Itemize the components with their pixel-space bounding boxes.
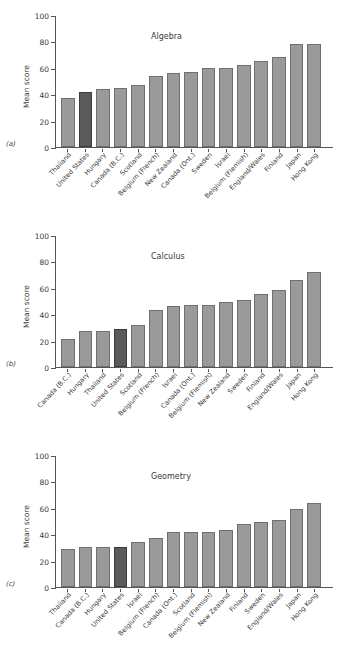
bar bbox=[219, 530, 233, 587]
y-axis-tick-label: 60 bbox=[39, 64, 49, 73]
bar-slot bbox=[288, 236, 306, 367]
bar bbox=[61, 549, 75, 587]
bar bbox=[254, 522, 268, 587]
plot-area-geometry: (c)Mean score020406080100GeometryThailan… bbox=[0, 440, 344, 660]
bar bbox=[307, 44, 321, 147]
bar-slot bbox=[129, 236, 147, 367]
bar-slot bbox=[147, 456, 165, 587]
bar-slot bbox=[147, 16, 165, 147]
bar-slot bbox=[253, 236, 271, 367]
x-axis-labels: ThailandUnited StatesHungaryCanada (B.C.… bbox=[55, 149, 333, 221]
bar-slot bbox=[165, 236, 183, 367]
bar-slot bbox=[200, 456, 218, 587]
x-label-slot: England/Wales bbox=[270, 589, 288, 661]
bar-slot bbox=[217, 236, 235, 367]
bar-series bbox=[56, 456, 333, 587]
panel-letter: (a) bbox=[6, 140, 16, 148]
y-axis-tick-label: 20 bbox=[39, 117, 49, 126]
bar-slot bbox=[77, 16, 95, 147]
bar bbox=[272, 290, 286, 367]
bar-slot bbox=[77, 456, 95, 587]
y-axis-tick-label: 60 bbox=[39, 284, 49, 293]
bar-slot bbox=[94, 236, 112, 367]
bar bbox=[237, 65, 251, 147]
bar-slot bbox=[253, 16, 271, 147]
bar-slot bbox=[165, 456, 183, 587]
bar bbox=[131, 325, 145, 367]
bar bbox=[219, 68, 233, 147]
bar-slot bbox=[305, 16, 323, 147]
bar-slot bbox=[288, 16, 306, 147]
bar-highlighted bbox=[79, 92, 93, 147]
y-axis-tick-label: 100 bbox=[35, 12, 49, 21]
chart-panel-geometry: (c)Mean score020406080100GeometryThailan… bbox=[0, 440, 344, 660]
chart-panel-calculus: (b)Mean score020406080100CalculusCanada … bbox=[0, 220, 344, 440]
y-axis-tick-label: 0 bbox=[44, 144, 49, 153]
panel-letter: (b) bbox=[6, 360, 16, 368]
bar-slot bbox=[270, 16, 288, 147]
bar bbox=[61, 339, 75, 367]
bar bbox=[237, 524, 251, 587]
x-label-slot: Hong Kong bbox=[305, 149, 323, 221]
bar-slot bbox=[112, 16, 130, 147]
bar-slot bbox=[305, 456, 323, 587]
bar bbox=[149, 76, 163, 147]
bar bbox=[167, 532, 181, 587]
bar bbox=[96, 547, 110, 587]
bar bbox=[290, 44, 304, 147]
bar-slot bbox=[182, 236, 200, 367]
bar bbox=[131, 542, 145, 587]
bar bbox=[184, 305, 198, 367]
bar-slot bbox=[59, 236, 77, 367]
bar bbox=[167, 73, 181, 147]
x-label-slot: Hong Kong bbox=[305, 589, 323, 661]
bar bbox=[202, 305, 216, 367]
plot-area-calculus: (b)Mean score020406080100CalculusCanada … bbox=[0, 220, 344, 440]
bar bbox=[184, 532, 198, 587]
x-axis-labels: ThailandCanada (B.C.)HungaryUnited State… bbox=[55, 589, 333, 661]
bar bbox=[307, 503, 321, 587]
bar-highlighted bbox=[114, 547, 128, 587]
bar-slot bbox=[235, 16, 253, 147]
y-axis-tick-label: 100 bbox=[35, 452, 49, 461]
bar-slot bbox=[288, 456, 306, 587]
bar bbox=[254, 61, 268, 147]
x-label-slot: Japan bbox=[288, 149, 306, 221]
bar-slot bbox=[129, 456, 147, 587]
bar bbox=[272, 520, 286, 587]
bar-slot bbox=[217, 16, 235, 147]
bar-slot bbox=[235, 456, 253, 587]
x-label-slot: Hong Kong bbox=[305, 369, 323, 441]
x-axis-labels: Canada (B.C.)HungaryThailandUnited State… bbox=[55, 369, 333, 441]
y-axis-tick-label: 80 bbox=[39, 258, 49, 267]
bar-slot bbox=[129, 16, 147, 147]
bar bbox=[167, 306, 181, 367]
x-label-slot: New Zealand bbox=[217, 589, 235, 661]
bar-slot bbox=[305, 236, 323, 367]
bar-slot bbox=[270, 236, 288, 367]
bar-slot bbox=[182, 456, 200, 587]
y-axis-tick-label: 0 bbox=[44, 584, 49, 593]
x-label-slot: England/Wales bbox=[252, 149, 270, 221]
bar bbox=[131, 85, 145, 147]
bar bbox=[96, 331, 110, 367]
bar bbox=[202, 68, 216, 147]
bar bbox=[290, 509, 304, 587]
bar-slot bbox=[112, 456, 130, 587]
bar-series bbox=[56, 236, 333, 367]
bar bbox=[149, 310, 163, 367]
axes: 020406080100Geometry bbox=[55, 456, 333, 588]
y-axis-label: Mean score bbox=[22, 505, 31, 548]
x-label-slot: Japan bbox=[288, 369, 306, 441]
y-axis-label: Mean score bbox=[22, 65, 31, 108]
y-axis-tick-label: 0 bbox=[44, 364, 49, 373]
x-label-slot: New Zealand bbox=[217, 369, 235, 441]
bar bbox=[184, 72, 198, 147]
panel-letter: (c) bbox=[6, 580, 15, 588]
bar-highlighted bbox=[114, 329, 128, 367]
bar-slot bbox=[59, 16, 77, 147]
y-axis-label: Mean score bbox=[22, 285, 31, 328]
plot-area-algebra: (a)Mean score020406080100AlgebraThailand… bbox=[0, 0, 344, 220]
bar bbox=[61, 98, 75, 147]
bar-slot bbox=[253, 456, 271, 587]
